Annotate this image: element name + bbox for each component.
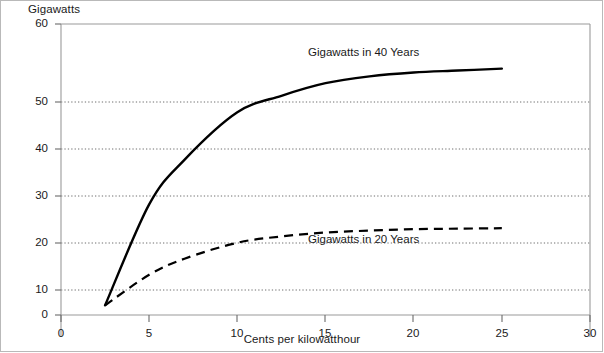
x-tick-label-5: 5 [134,327,164,339]
series-annotation-20-years: Gigawatts in 20 Years [308,233,419,245]
y-axis-title: Gigawatts [28,3,80,15]
series-annotation-40-years: Gigawatts in 40 Years [308,46,419,58]
y-tick-label-40: 40 [22,142,48,154]
y-tick-label-60: 60 [22,17,48,29]
plot-area [0,0,604,353]
x-tick-label-25: 25 [487,327,517,339]
y-tick-marks [55,24,61,315]
x-tick-label-0: 0 [46,327,76,339]
y-tick-label-50: 50 [22,95,48,107]
series-line-gigawatts-40-years [105,69,502,306]
y-tick-label-10: 10 [22,283,48,295]
x-tick-label-20: 20 [398,327,428,339]
x-tick-label-10: 10 [222,327,252,339]
x-tick-marks [61,315,590,322]
chart-figure: Gigawatts Cents per kilowatthour 60 50 4… [0,0,604,353]
y-tick-label-30: 30 [22,189,48,201]
series-line-gigawatts-20-years [105,228,502,305]
y-tick-label-20: 20 [22,236,48,248]
x-tick-label-15: 15 [310,327,340,339]
y-tick-label-0: 0 [22,308,48,320]
gridlines [61,102,590,290]
x-tick-label-30: 30 [575,327,604,339]
